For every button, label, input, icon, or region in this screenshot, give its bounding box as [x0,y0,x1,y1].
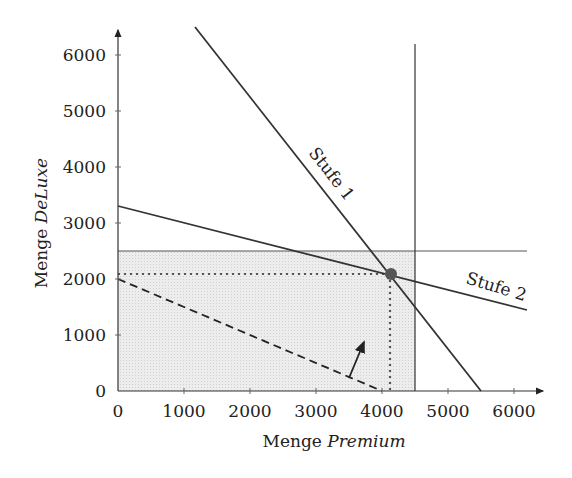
y-axis-title: Menge DeLuxe [31,158,51,288]
x-tick-label: 1000 [162,401,205,421]
feasible-region [118,251,415,391]
x-tick-label: 6000 [492,401,535,421]
y-tick-label: 1000 [63,325,106,345]
x-tick-label: 5000 [426,401,469,421]
x-tick-label: 3000 [294,401,337,421]
y-tick-label: 5000 [63,101,106,121]
y-tick-label: 4000 [63,157,106,177]
linear-programming-chart: 0 1000 2000 3000 4000 5000 6000 0 1000 2… [0,0,572,478]
x-tick-label: 4000 [360,401,403,421]
x-axis-title: Menge Premium [262,431,405,451]
optimum-point [385,268,397,280]
y-tick-label: 6000 [63,45,106,65]
y-tick-label: 0 [95,381,106,401]
label-stufe-2: Stufe 2 [464,268,529,305]
y-tick-labels: 0 1000 2000 3000 4000 5000 6000 [63,45,106,401]
y-tick-label: 2000 [63,269,106,289]
y-tick-label: 3000 [63,213,106,233]
label-stufe-1: Stufe 1 [305,143,359,204]
x-tick-labels: 0 1000 2000 3000 4000 5000 6000 [113,401,536,421]
x-tick-label: 0 [113,401,124,421]
x-tick-label: 2000 [228,401,271,421]
